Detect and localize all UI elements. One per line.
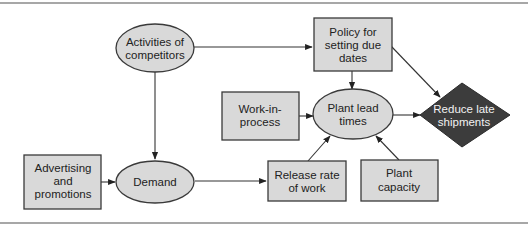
- svg-text:times: times: [339, 115, 367, 127]
- edge-release-leadtimes: [308, 136, 330, 161]
- svg-text:of work: of work: [288, 182, 325, 194]
- svg-text:Advertising: Advertising: [35, 162, 92, 174]
- svg-text:promotions: promotions: [35, 188, 92, 200]
- node-demand: Demand: [116, 161, 194, 203]
- node-release-rate-of-work: Release rate of work: [268, 161, 346, 201]
- svg-text:Demand: Demand: [133, 176, 176, 188]
- node-work-in-process: Work-in- process: [222, 92, 299, 140]
- svg-text:Plant lead: Plant lead: [327, 102, 378, 114]
- svg-text:capacity: capacity: [378, 181, 420, 193]
- svg-text:Release rate: Release rate: [274, 169, 339, 181]
- node-plant-capacity: Plant capacity: [361, 160, 438, 201]
- svg-text:and: and: [53, 175, 72, 187]
- svg-text:setting due: setting due: [325, 39, 381, 51]
- node-policy-for-setting-due-dates: Policy for setting due dates: [314, 18, 392, 71]
- svg-text:Plant: Plant: [386, 167, 413, 179]
- svg-text:shipments: shipments: [438, 116, 491, 128]
- svg-text:Activities of: Activities of: [126, 36, 185, 48]
- edge-policy-reduce: [391, 46, 440, 97]
- influence-diagram: Activities of competitors Policy for set…: [0, 0, 528, 225]
- svg-text:Reduce late: Reduce late: [433, 103, 494, 115]
- node-reduce-late-shipments: Reduce late shipments: [420, 83, 510, 147]
- node-advertising-and-promotions: Advertising and promotions: [24, 155, 101, 209]
- svg-text:Work-in-: Work-in-: [238, 103, 281, 115]
- edge-capacity-leadtimes: [376, 136, 399, 160]
- svg-text:dates: dates: [339, 52, 367, 64]
- svg-text:Policy for: Policy for: [329, 26, 376, 38]
- node-plant-lead-times: Plant lead times: [313, 89, 393, 139]
- svg-text:process: process: [240, 116, 281, 128]
- node-activities-of-competitors: Activities of competitors: [116, 24, 194, 72]
- svg-text:competitors: competitors: [125, 49, 185, 61]
